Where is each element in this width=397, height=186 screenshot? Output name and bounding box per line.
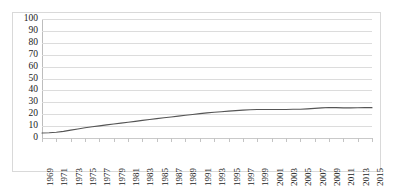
x-tick-label-2001: 2001 <box>276 168 285 185</box>
x-tick-label-1977: 1977 <box>103 168 112 185</box>
x-tick-label-1969: 1969 <box>46 168 55 185</box>
y-axis-tick-labels: 0102030405060708090100 <box>13 13 40 144</box>
series-1-line <box>42 108 372 133</box>
x-tick-label-2013: 2013 <box>362 168 371 185</box>
x-tick-label-2007: 2007 <box>319 168 328 185</box>
x-tick-label-2015: 2015 <box>376 168 385 185</box>
y-tick-label-100: 100 <box>24 14 38 24</box>
x-tick-label-1997: 1997 <box>247 168 256 185</box>
y-tick-label-40: 40 <box>29 85 39 95</box>
x-tick-label-1979: 1979 <box>118 168 127 185</box>
y-tick-label-0: 0 <box>33 133 38 143</box>
x-tick-label-2003: 2003 <box>290 168 299 185</box>
x-tick-label-1973: 1973 <box>75 168 84 185</box>
x-tick-label-2009: 2009 <box>333 168 342 185</box>
x-axis-tick-labels: 1969197119731975197719791981198319851987… <box>42 142 372 172</box>
x-tick-label-2011: 2011 <box>347 168 356 185</box>
x-tick-label-1987: 1987 <box>175 168 184 185</box>
x-tick-label-1999: 1999 <box>261 168 270 185</box>
chart-figure: 0102030405060708090100 19691971197319751… <box>12 12 381 172</box>
x-tick-label-2005: 2005 <box>304 168 313 185</box>
x-tick-label-1989: 1989 <box>189 168 198 185</box>
y-tick-label-10: 10 <box>29 121 39 131</box>
x-tick-label-1991: 1991 <box>204 168 213 185</box>
x-tick-label-1981: 1981 <box>132 168 141 185</box>
x-tick-label-1985: 1985 <box>161 168 170 185</box>
y-tick-label-80: 80 <box>29 38 39 48</box>
y-tick-label-70: 70 <box>29 50 39 60</box>
y-tick-label-30: 30 <box>29 97 39 107</box>
y-tick-label-50: 50 <box>29 74 39 84</box>
y-tick-label-20: 20 <box>29 109 39 119</box>
x-tick-2015 <box>372 138 373 142</box>
x-tick-label-1995: 1995 <box>233 168 242 185</box>
x-tick-label-1983: 1983 <box>146 168 155 185</box>
y-tick-label-60: 60 <box>29 62 39 72</box>
y-tick-label-90: 90 <box>29 26 39 36</box>
x-tick-label-1975: 1975 <box>89 168 98 185</box>
series-line-chart <box>42 19 372 138</box>
x-tick-label-1971: 1971 <box>60 168 69 185</box>
x-tick-label-1993: 1993 <box>218 168 227 185</box>
